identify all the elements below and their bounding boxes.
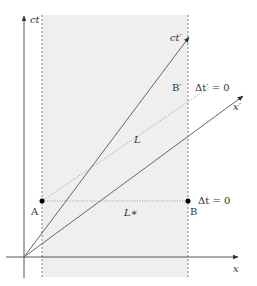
spacetime-diagram: ct x ct′ x′ B′ Δt′ = 0 L L∗ A B Δt = 0 <box>0 0 257 286</box>
simultaneity-primed-label: Δt′ = 0 <box>195 82 230 93</box>
ct-axis-label: ct <box>30 14 41 25</box>
b-prime-label: B′ <box>172 82 182 93</box>
contracted-length-label: L∗ <box>123 207 137 218</box>
event-a-point <box>40 199 45 204</box>
event-b-point <box>186 199 191 204</box>
shaded-worldtube-region <box>42 15 188 277</box>
a-label: A <box>30 206 39 217</box>
b-label: B <box>190 206 197 217</box>
x-axis-label: x <box>233 263 239 274</box>
simultaneity-unprimed-label: Δt = 0 <box>198 195 230 206</box>
ct-prime-axis-label: ct′ <box>170 32 183 43</box>
x-prime-axis-label: x′ <box>233 101 242 112</box>
proper-length-label: L <box>133 134 141 145</box>
